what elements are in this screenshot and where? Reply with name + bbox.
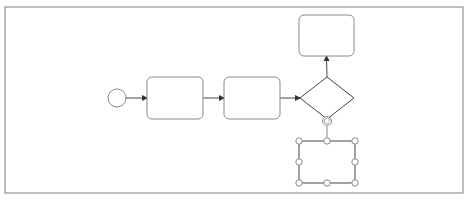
diagram-canvas[interactable] xyxy=(0,0,470,200)
rotate-icon[interactable] xyxy=(323,117,332,126)
task-selected[interactable] xyxy=(299,141,355,183)
resize-handle-s[interactable] xyxy=(324,180,330,186)
resize-handle-ne[interactable] xyxy=(352,138,358,144)
resize-handle-e[interactable] xyxy=(352,159,358,165)
resize-handle-n[interactable] xyxy=(324,138,330,144)
gateway[interactable] xyxy=(300,77,354,119)
diagram-svg xyxy=(0,0,470,200)
resize-handle-nw[interactable] xyxy=(296,138,302,144)
task-top[interactable] xyxy=(299,15,354,56)
start-event[interactable] xyxy=(108,89,126,107)
resize-handle-sw[interactable] xyxy=(296,180,302,186)
sequence-flow-gateway-to-task-top[interactable] xyxy=(327,56,328,77)
task-1[interactable] xyxy=(147,77,203,119)
task-2[interactable] xyxy=(224,77,280,119)
resize-handle-w[interactable] xyxy=(296,159,302,165)
resize-handle-se[interactable] xyxy=(352,180,358,186)
